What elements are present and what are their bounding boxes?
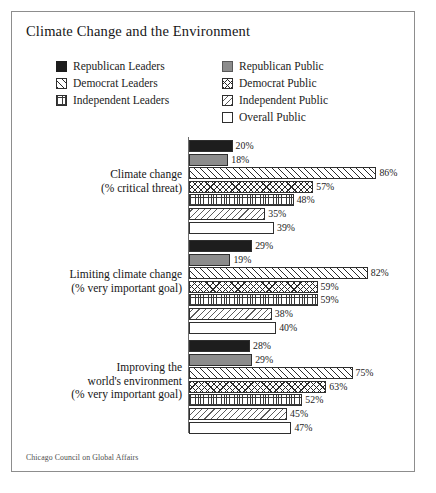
bars-limiting-climate-change: 29% 19% 82% 59% 59% [189,240,414,336]
legend-label-independent-leaders: Independent Leaders [73,94,169,107]
bar-value-label: 29% [255,355,273,365]
bar-republican-public[interactable] [189,154,228,166]
bar-republican-public[interactable] [189,254,230,266]
bar-group-limiting-climate-change: Limiting climate change (% very importan… [12,240,414,336]
bar-row[interactable]: 45% [189,408,414,420]
group-label-line-2: world's environment [12,375,182,389]
legend-label-republican-public: Republican Public [239,60,324,73]
legend-item-independent-public[interactable]: Independent Public [222,92,328,108]
chart-title: Climate Change and the Environment [26,23,250,40]
bar-independent-leaders[interactable] [189,394,302,406]
group-label-limiting-climate-change: Limiting climate change (% very importan… [12,268,182,295]
chart-legend: Republican Leaders Democrat Leaders Inde… [56,58,401,124]
legend-swatch-diagonal-forward-icon [56,78,67,89]
bar-value-label: 52% [305,395,323,405]
bar-independent-public[interactable] [189,208,265,220]
source-note: Chicago Council on Global Affairs [26,453,138,462]
bar-row[interactable]: 39% [189,222,414,234]
bar-democrat-leaders[interactable] [189,367,353,379]
legend-item-overall-public[interactable]: Overall Public [222,109,328,125]
bar-value-label: 63% [329,382,347,392]
figure-frame: Climate Change and the Environment Repub… [11,11,415,472]
bar-row[interactable]: 38% [189,308,414,320]
bars-climate-change: 20% 18% 86% 57% 48% [189,140,414,236]
group-label-line-1: Limiting climate change [12,268,182,282]
bar-row[interactable]: 40% [189,322,414,334]
bar-republican-leaders[interactable] [189,340,250,352]
bar-row[interactable]: 47% [189,422,414,434]
legend-item-republican-public[interactable]: Republican Public [222,58,328,74]
legend-item-democrat-public[interactable]: Democrat Public [222,75,328,91]
bar-value-label: 29% [255,241,273,251]
group-label-line-3: (% very important goal) [12,388,182,402]
bar-value-label: 39% [277,223,295,233]
bar-value-label: 18% [231,155,249,165]
bars-improving-environment: 28% 29% 75% 63% 52% [189,340,414,436]
legend-swatch-diagonal-back-icon [222,95,233,106]
bar-independent-public[interactable] [189,408,287,420]
bar-democrat-leaders[interactable] [189,267,368,279]
group-label-line-1: Improving the [12,361,182,375]
bar-value-label: 82% [371,268,389,278]
bar-row[interactable]: 59% [189,294,414,306]
bar-row[interactable]: 63% [189,381,414,393]
group-label-line-2: (% critical threat) [12,182,182,196]
bar-row[interactable]: 29% [189,240,414,252]
bar-row[interactable]: 48% [189,194,414,206]
group-label-improving-environment: Improving the world's environment (% ver… [12,361,182,402]
bar-row[interactable]: 86% [189,167,414,179]
bar-value-label: 47% [294,423,312,433]
bar-row[interactable]: 29% [189,354,414,366]
bar-value-label: 28% [253,341,271,351]
legend-swatch-solid-black-icon [56,61,67,72]
bar-democrat-public[interactable] [189,281,318,293]
legend-label-democrat-leaders: Democrat Leaders [73,77,158,90]
bar-row[interactable]: 19% [189,254,414,266]
legend-label-republican-leaders: Republican Leaders [73,60,165,73]
legend-column-public: Republican Public Democrat Public Indepe… [222,58,328,126]
bar-row[interactable]: 52% [189,394,414,406]
bar-value-label: 38% [275,309,293,319]
bar-overall-public[interactable] [189,322,276,334]
group-label-line-2: (% very important goal) [12,282,182,296]
bar-independent-leaders[interactable] [189,194,294,206]
bar-value-label: 19% [233,255,251,265]
bar-democrat-public[interactable] [189,381,326,393]
bar-democrat-public[interactable] [189,181,313,193]
bar-overall-public[interactable] [189,222,274,234]
bar-value-label: 59% [321,295,339,305]
bar-group-improving-environment: Improving the world's environment (% ver… [12,340,414,436]
group-label-line-1: Climate change [12,168,182,182]
bar-value-label: 75% [356,368,374,378]
legend-label-democrat-public: Democrat Public [239,77,317,90]
bar-row[interactable]: 20% [189,140,414,152]
legend-swatch-solid-gray-icon [222,61,233,72]
bar-value-label: 48% [297,195,315,205]
bar-value-label: 35% [268,209,286,219]
bar-value-label: 86% [379,168,397,178]
legend-item-democrat-leaders[interactable]: Democrat Leaders [56,75,169,91]
bar-row[interactable]: 18% [189,154,414,166]
bar-row[interactable]: 59% [189,281,414,293]
bar-value-label: 40% [279,323,297,333]
bar-row[interactable]: 28% [189,340,414,352]
bar-independent-public[interactable] [189,308,272,320]
legend-label-overall-public: Overall Public [239,111,306,124]
bar-row[interactable]: 82% [189,267,414,279]
bar-value-label: 45% [290,409,308,419]
legend-item-republican-leaders[interactable]: Republican Leaders [56,58,169,74]
bar-republican-public[interactable] [189,354,252,366]
group-label-climate-change: Climate change (% critical threat) [12,168,182,195]
bar-row[interactable]: 57% [189,181,414,193]
bar-row[interactable]: 35% [189,208,414,220]
legend-swatch-crosshatch-icon [222,78,233,89]
bar-democrat-leaders[interactable] [189,167,376,179]
plot-area: Climate change (% critical threat) 20% 1… [12,132,414,442]
bar-republican-leaders[interactable] [189,140,233,152]
bar-overall-public[interactable] [189,422,291,434]
legend-item-independent-leaders[interactable]: Independent Leaders [56,92,169,108]
legend-column-leaders: Republican Leaders Democrat Leaders Inde… [56,58,169,109]
bar-row[interactable]: 75% [189,367,414,379]
bar-republican-leaders[interactable] [189,240,252,252]
bar-independent-leaders[interactable] [189,294,318,306]
